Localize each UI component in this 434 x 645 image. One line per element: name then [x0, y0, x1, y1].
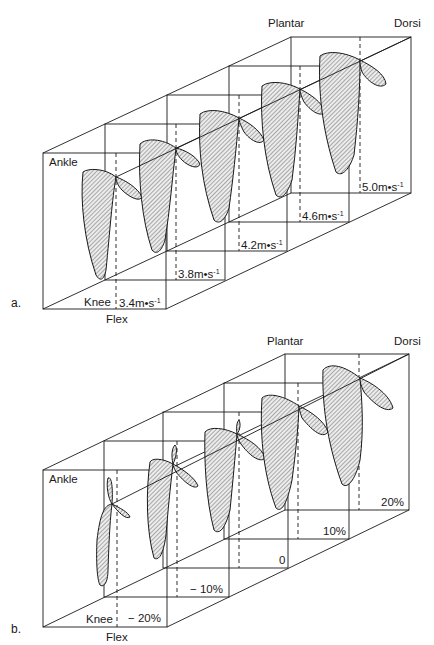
loop-4.2-dorsi-lobe — [239, 118, 264, 142]
loop-minus20-dorsi-lobe — [112, 504, 130, 518]
loop-5.0-dorsi-lobe — [360, 60, 386, 86]
speed-label-3.8: 3.8m•s-1 — [178, 268, 220, 281]
loop-10-dorsi-lobe — [299, 406, 328, 435]
loop-0-dorsi-lobe — [237, 434, 265, 460]
panel-a — [43, 37, 411, 309]
unit-exponent: -1 — [213, 268, 219, 275]
speed-label-4.2: 4.2m•s-1 — [241, 239, 283, 252]
loop-0 — [205, 428, 237, 531]
speed-value: 4.2m•s — [241, 239, 276, 251]
panel-b-flex-label: Flex — [106, 632, 128, 644]
grade-label-10: 10% — [323, 526, 346, 538]
loop-minus20 — [97, 504, 112, 586]
unit-exponent: -1 — [154, 297, 160, 304]
panel-a-flex-label: Flex — [106, 314, 128, 326]
panel-a-loops — [82, 53, 386, 280]
loop-4.6 — [262, 82, 300, 196]
unit-exponent: -1 — [337, 210, 343, 217]
panel-a-letter: a. — [11, 297, 21, 309]
speed-value: 3.8m•s — [178, 268, 213, 280]
panel-a-spine — [116, 37, 411, 177]
panel-b — [43, 354, 409, 627]
loop-minus10 — [147, 459, 173, 559]
angle-angle-diagram — [0, 0, 434, 645]
loop-3.8-dorsi-lobe — [176, 148, 200, 167]
loop-20-dorsi-lobe — [360, 378, 393, 410]
panel-b-dorsi-label: Dorsi — [394, 336, 421, 348]
loop-0-upper — [237, 420, 240, 434]
loop-3.4 — [82, 169, 116, 279]
panel-a-knee-label: Knee — [84, 297, 111, 309]
panel-b-ankle-label: Ankle — [49, 474, 78, 486]
grade-label-minus10: − 10% — [190, 584, 223, 596]
unit-exponent: -1 — [276, 239, 282, 246]
panel-b-knee-label: Knee — [86, 614, 113, 626]
unit-exponent: -1 — [397, 181, 403, 188]
grade-label-20: 20% — [381, 497, 404, 509]
grade-label-0: 0 — [279, 555, 285, 567]
panel-b-loops — [97, 366, 393, 586]
loop-20 — [323, 366, 362, 486]
panel-a-ankle-label: Ankle — [49, 157, 78, 169]
panel-a-dorsi-label: Dorsi — [394, 18, 421, 30]
grade-label-minus20: − 20% — [128, 613, 161, 625]
speed-label-3.4: 3.4m•s-1 — [119, 297, 161, 310]
panel-b-letter: b. — [11, 623, 21, 635]
speed-label-4.6: 4.6m•s-1 — [302, 210, 344, 223]
panel-b-spine — [112, 354, 409, 504]
panel-b-plantar-label: Plantar — [267, 336, 303, 348]
panel-a-plantar-label: Plantar — [268, 18, 304, 30]
speed-value: 3.4m•s — [119, 297, 154, 309]
loop-3.4-dorsi-lobe — [116, 177, 142, 199]
loop-minus20-upper — [107, 478, 112, 504]
loop-4.2 — [200, 111, 239, 223]
loop-minus10-upper — [172, 445, 177, 464]
speed-value: 4.6m•s — [302, 210, 337, 222]
speed-value: 5.0m•s — [362, 181, 397, 193]
speed-label-5.0: 5.0m•s-1 — [362, 181, 404, 194]
